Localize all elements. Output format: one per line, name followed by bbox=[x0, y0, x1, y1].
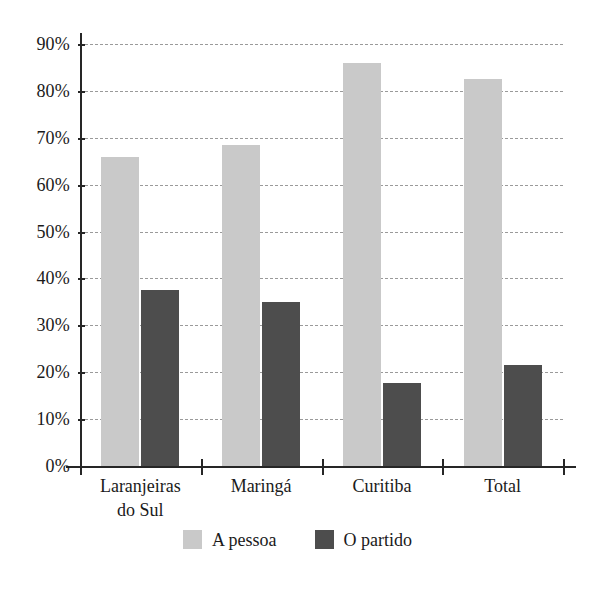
y-axis-tick-label: 90% bbox=[8, 35, 70, 53]
legend-swatch-dark bbox=[315, 530, 334, 549]
chart-legend: A pessoaO partido bbox=[0, 530, 595, 549]
y-axis-tick-mark bbox=[78, 372, 85, 374]
x-axis-category-label: Maringá bbox=[201, 474, 322, 498]
x-axis-tick-mark bbox=[563, 459, 565, 475]
bar-group bbox=[464, 30, 542, 466]
bar-group bbox=[343, 30, 421, 466]
bar bbox=[101, 157, 139, 466]
x-axis-category-label: Curitiba bbox=[322, 474, 443, 498]
bar bbox=[222, 145, 260, 466]
y-axis-tick-label: 60% bbox=[8, 176, 70, 194]
bar bbox=[383, 383, 421, 466]
legend-item-label: A pessoa bbox=[212, 531, 277, 549]
plot-area bbox=[80, 30, 563, 466]
y-axis-tick-label: 40% bbox=[8, 269, 70, 287]
y-axis-tick-label: 50% bbox=[8, 223, 70, 241]
y-axis-tick-label: 0% bbox=[8, 457, 70, 475]
y-axis-tick-mark bbox=[78, 185, 85, 187]
legend-item: O partido bbox=[315, 530, 412, 549]
y-axis-tick-mark bbox=[78, 419, 85, 421]
y-axis-tick-label: 70% bbox=[8, 129, 70, 147]
x-axis-tick-mark bbox=[80, 459, 82, 475]
y-axis-tick-mark bbox=[78, 325, 85, 327]
bar bbox=[504, 365, 542, 466]
legend-item-label: O partido bbox=[344, 531, 412, 549]
bar bbox=[262, 302, 300, 466]
y-axis-tick-mark bbox=[78, 232, 85, 234]
legend-swatch-light bbox=[183, 530, 202, 549]
y-axis-tick-mark bbox=[78, 91, 85, 93]
legend-item: A pessoa bbox=[183, 530, 277, 549]
x-axis-tick-mark bbox=[322, 459, 324, 475]
bar bbox=[343, 63, 381, 466]
bar-chart-figure: 90%80%70%60%50%40%30%20%10%0% Laranjeira… bbox=[0, 0, 595, 599]
bar-group bbox=[222, 30, 300, 466]
y-axis-tick-mark bbox=[78, 44, 85, 46]
bar bbox=[464, 79, 502, 466]
y-axis-tick-mark bbox=[78, 278, 85, 280]
bar-group bbox=[101, 30, 179, 466]
y-axis-tick-label: 80% bbox=[8, 82, 70, 100]
x-axis-tick-mark bbox=[442, 459, 444, 475]
x-axis-category-label: Laranjeiras do Sul bbox=[80, 474, 201, 522]
x-axis-category-label: Total bbox=[442, 474, 563, 498]
bar bbox=[141, 290, 179, 466]
y-axis-tick-label: 20% bbox=[8, 363, 70, 381]
y-axis-tick-label: 30% bbox=[8, 316, 70, 334]
x-axis-tick-mark bbox=[201, 459, 203, 475]
y-axis-tick-label: 10% bbox=[8, 410, 70, 428]
y-axis-tick-mark bbox=[78, 138, 85, 140]
